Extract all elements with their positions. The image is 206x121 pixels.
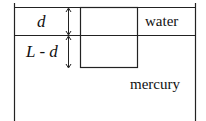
water-label: water [145, 14, 178, 29]
d-label: d [37, 13, 46, 30]
submerged-block [81, 8, 138, 68]
mercury-label: mercury [130, 77, 180, 92]
d-dimension-arrow-icon [66, 8, 71, 35]
l-minus-d-dimension-arrow-icon [66, 36, 71, 68]
l-minus-d-label: L - d [26, 43, 58, 60]
buoyancy-diagram: d L - d water mercury [0, 0, 206, 121]
